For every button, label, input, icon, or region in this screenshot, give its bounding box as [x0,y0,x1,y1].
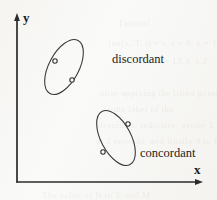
cluster-concordant-group [89,104,144,171]
discordant-label: discordant [112,53,164,66]
discordant-data-point [70,78,74,82]
discordant-ellipse [37,33,92,100]
y-axis-arrowhead [14,13,20,21]
discordant-data-point [53,59,57,63]
y-axis-label: y [23,11,30,24]
concordant-ellipse [89,104,144,171]
figure-canvas [0,0,217,200]
x-axis-label: x [194,163,201,176]
cluster-discordant-group [37,33,92,100]
concordant-data-point [101,150,105,154]
scatter-diagram-figure: Tutorial fun(x, T, t) = t, x = 0, n = 1,… [0,0,217,200]
x-axis-arrowhead [195,179,203,185]
concordant-label: concordant [140,147,196,160]
concordant-data-point [126,122,130,126]
